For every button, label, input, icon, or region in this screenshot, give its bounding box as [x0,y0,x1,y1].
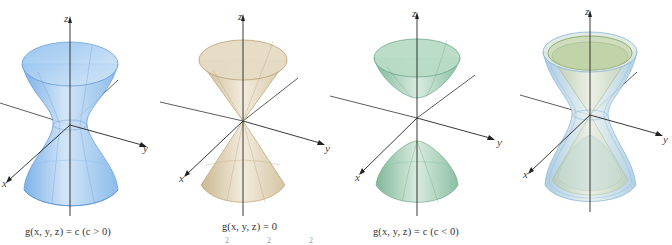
hyperboloid-two-sheets-diagram: z y x [340,0,510,245]
y-arrow-icon [487,135,495,140]
y-axis [417,118,490,138]
hyperboloid-one-sheet-diagram: z y x [0,0,170,245]
x-axis-label: x [522,168,528,180]
z-axis-label: z [411,7,417,19]
y-axis-label: y [142,142,148,154]
combined-level-surfaces-diagram: z y x [500,0,672,245]
y-axis-label: y [662,133,668,145]
x-axis-label: x [354,171,360,183]
double-cone-diagram: z y x [170,0,340,245]
caption-c-negative: g(x, y, z) = c (c < 0) [373,226,459,237]
x-arrow-icon [359,168,365,175]
y-arrow-icon [655,131,663,136]
caption-c-positive: g(x, y, z) = c (c > 0) [25,226,111,237]
caption-c-zero: g(x, y, z) = 0 [222,221,277,232]
z-axis-label: z [237,10,243,22]
y-arrow-icon [317,140,325,145]
z-axis-label: z [63,12,69,24]
panel-hyperboloid-two-sheets: z y x g(x, y, z) = c (c < 0) [340,0,510,245]
panel-hyperboloid-one-sheet: z y x g(x, y, z) = c (c > 0) [0,0,170,245]
panel-combined-level-surfaces: z y x [500,0,672,245]
x-arrow-icon [184,170,190,177]
panel-double-cone: z y x g(x, y, z) = 0 2 2 2 [170,0,340,245]
x-arrow-icon [528,167,534,174]
x-axis-label: x [1,177,7,189]
x-axis-label: x [178,172,184,184]
z-arrow-icon [68,16,72,23]
x-arrow-icon [6,176,12,183]
z-axis-label: z [584,5,590,17]
cut-off-equation-fragment: 2 2 2 [225,236,331,245]
y-axis-label: y [324,142,330,154]
